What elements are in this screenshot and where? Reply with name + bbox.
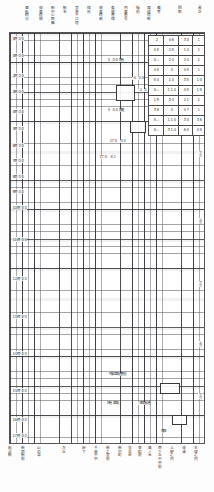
station-label-text: 山の湯 (36, 446, 39, 457)
grid-annotation: １７０．６２ (98, 156, 116, 159)
table-cell: ４７ (179, 106, 193, 116)
row-label: １２時 ００ (11, 276, 27, 281)
station-label-text: 新中町 (117, 446, 120, 457)
table-cell: １０ (193, 76, 205, 86)
table-row[interactable]: ８― ３１４ ６８ ４８ (149, 126, 205, 136)
table-row[interactable]: ５― ２４ ２４ １ (149, 56, 205, 66)
table-cell: ６８ (179, 126, 193, 136)
column-header: 回数 (172, 4, 186, 30)
grid-annotation: 本線直通 (138, 402, 150, 405)
table-cell: ２４ (164, 56, 179, 66)
table-cell: １９ (149, 96, 164, 106)
station-label-text: 新之宮前 (105, 446, 108, 461)
station-label: 新中町 (114, 446, 124, 457)
station-label: 花見台 (124, 446, 134, 457)
column-header-label: 停車時間 (38, 6, 41, 30)
column-header: 累計 (192, 4, 206, 30)
column-header-label: 列車番号 (123, 6, 126, 30)
station-label: 峠下 (78, 446, 88, 453)
station-label-text: 高ノ台 (147, 446, 150, 457)
table-cell: ５― (149, 86, 164, 96)
station-label: 西ケ丘中央前 (154, 446, 164, 468)
schedule-sheet: 運転時分 停車時間 駅中心距離 駅名 営業キロ程 線別 発着時刻 着発番線 列車… (0, 0, 214, 492)
station-label-text: 起点駅 (7, 446, 10, 457)
row-label: ２時 ００ (11, 73, 24, 78)
row-label: １３時 ００ (11, 314, 27, 319)
table-cell: ３８ (179, 76, 193, 86)
grid-annotation: ３．０８ 快速 (106, 109, 125, 112)
table-cell: １ (193, 46, 205, 56)
column-header-label: 運転時分 (24, 6, 27, 30)
highlight-box[interactable] (130, 121, 146, 133)
direction-mark: 上り (198, 341, 203, 347)
table-row[interactable]: １９ ３４ ２１ １ (149, 96, 205, 106)
station-label-text: 新宿駅前 (20, 446, 23, 461)
table-row[interactable]: ２ ４６ ３０ １ (149, 36, 205, 46)
row-label: １０時 ００ (11, 205, 27, 210)
table-cell: １４ (179, 46, 193, 56)
table-cell: ３４ (179, 116, 193, 126)
station-label-text: 上野之内 (169, 446, 172, 461)
table-cell: ３６ (149, 106, 164, 116)
table-cell: ４ (164, 66, 179, 76)
grid-annotation: 列車運転整理 (108, 373, 126, 376)
station-label-text: 花見台 (127, 446, 130, 457)
row-label: １６時 ００ (11, 417, 27, 422)
table-row[interactable]: ３６ ４ ４７ １ (149, 106, 205, 116)
station-label: 本線之内 (190, 446, 200, 461)
table-row[interactable]: ８― １１４ ３４ ３６ (149, 116, 205, 126)
row-label: １７時 ００ (11, 433, 27, 438)
station-label-text: 深浦 (181, 446, 184, 453)
direction-mark: 下り (198, 151, 203, 157)
column-header-label: 駅中心距離 (50, 6, 53, 30)
column-header-label: 駅名 (62, 6, 65, 30)
direction-mark: 下り (198, 393, 203, 399)
table-cell: ８４ (149, 76, 164, 86)
station-label: 起点駅 (4, 446, 14, 457)
station-label: 東町前 (134, 446, 144, 457)
station-label-text: 東町前 (137, 446, 140, 457)
row-label: ９時 ００ (11, 189, 24, 194)
row-label: ８時 ００ (11, 174, 24, 179)
table-cell: ２ (149, 36, 164, 46)
highlight-box[interactable] (172, 415, 187, 425)
table-cell: ２４ (179, 56, 193, 66)
table-cell: ４８ (193, 126, 205, 136)
summary-table-body: ２ ４６ ３０ １ ４８ ２８ １４ １ ５― ２４ ２４ １ ４８ ４ ４８ (149, 36, 205, 136)
column-header-label: 編成両数 (146, 6, 149, 30)
table-cell: １ (193, 66, 205, 76)
station-label: 高ノ台 (144, 446, 154, 457)
column-header-label: 回数 (177, 6, 180, 30)
table-cell: ３４ (164, 96, 179, 106)
table-row[interactable]: ５― １１４ ４８ １８ (149, 86, 205, 96)
row-label: １１時 ００ (11, 237, 27, 242)
station-label: 山の湯 (33, 446, 43, 457)
column-header-label: 備考 (156, 6, 159, 30)
table-row[interactable]: ４８ ２８ １４ １ (149, 46, 205, 56)
station-label: 上野之内 (166, 446, 176, 461)
row-label: ５時 ００ (11, 126, 24, 131)
row-label: ３時 ００ (11, 89, 24, 94)
table-cell: １ (193, 56, 205, 66)
direction-mark: 上り (198, 218, 203, 224)
grid-annotation: 連絡 (160, 430, 167, 433)
table-row[interactable]: ８４ １４ ３８ １０ (149, 76, 205, 86)
table-cell: １４ (164, 76, 179, 86)
station-label: 深浦 (178, 446, 188, 453)
station-label-text: 本線之内 (193, 446, 196, 461)
table-cell: ３０ (179, 36, 193, 46)
station-label: 千束中央 (90, 446, 100, 461)
column-header-label: 発着時刻 (98, 6, 101, 30)
table-cell: １ (193, 96, 205, 106)
table-cell: １１４ (164, 116, 179, 126)
table-cell: ８― (149, 126, 164, 136)
station-label: 方丘 (58, 446, 68, 453)
table-row[interactable]: ４８ ４ ４８ １ (149, 66, 205, 76)
highlight-box[interactable] (116, 85, 135, 101)
table-cell: ３６ (193, 116, 205, 126)
row-label: １時 ００ (11, 53, 24, 58)
summary-number-table[interactable]: ２ ４６ ３０ １ ４８ ２８ １４ １ ５― ２４ ２４ １ ４８ ４ ４８ (148, 35, 205, 136)
column-header: 備考 (151, 4, 165, 30)
highlight-box[interactable] (160, 383, 180, 394)
station-label-text: 西ケ丘中央前 (157, 446, 160, 468)
